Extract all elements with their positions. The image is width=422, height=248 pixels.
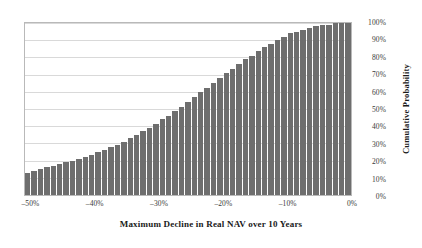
bar: [70, 161, 75, 195]
x-axis-title: Maximum Decline in Real NAV over 10 Year…: [0, 219, 422, 229]
bar: [192, 97, 197, 195]
y-axis-title: Cumulative Probability: [398, 22, 414, 196]
bar: [179, 107, 184, 195]
bar: [333, 23, 338, 195]
bar: [153, 124, 158, 195]
bar: [140, 131, 145, 195]
bar: [275, 40, 280, 195]
bar: [31, 171, 36, 195]
x-axis-tick-label: 0%: [347, 199, 357, 208]
bar: [300, 30, 305, 195]
plot-area: [24, 22, 352, 196]
bar: [147, 128, 152, 195]
y-axis-tick-label: 20%: [372, 157, 386, 166]
bar: [102, 150, 107, 195]
y-axis-tick-labels: 0%10%20%30%40%50%60%70%80%90%100%: [356, 22, 386, 196]
bar-series: [25, 23, 351, 195]
bar: [281, 37, 286, 195]
bar: [204, 88, 209, 195]
bar: [320, 25, 325, 195]
bar: [243, 59, 248, 195]
y-axis-tick-label: 80%: [372, 52, 386, 61]
y-axis-tick-label: 40%: [372, 122, 386, 131]
bar: [172, 111, 177, 195]
bar: [95, 152, 100, 195]
bar: [294, 32, 299, 195]
x-axis-tick-label: –30%: [150, 199, 168, 208]
y-axis-tick-label: 30%: [372, 139, 386, 148]
bar: [76, 159, 81, 195]
bar: [51, 166, 56, 195]
bar: [57, 164, 62, 195]
bar: [326, 25, 331, 195]
x-axis-tick-labels: –50%–40%–30%–20%–10%0%: [24, 199, 352, 211]
bar: [128, 138, 133, 195]
x-axis-tick-label: –10%: [279, 199, 297, 208]
y-axis-tick-label: 100%: [368, 18, 386, 27]
bar: [230, 69, 235, 195]
bar: [160, 119, 165, 195]
bar: [211, 83, 216, 195]
bar: [288, 33, 293, 195]
bar: [345, 23, 350, 195]
bar: [89, 155, 94, 195]
bar: [256, 51, 261, 195]
y-axis-tick-label: 60%: [372, 87, 386, 96]
bar: [185, 102, 190, 195]
bar: [134, 135, 139, 195]
bar: [166, 116, 171, 195]
bar: [63, 162, 68, 195]
y-axis-tick-label: 0%: [376, 192, 386, 201]
bar: [25, 173, 30, 195]
bar: [262, 47, 267, 195]
y-axis-tick-label: 70%: [372, 70, 386, 79]
bar: [313, 26, 318, 195]
bar: [268, 44, 273, 195]
bar: [121, 142, 126, 195]
x-axis-tick-label: –40%: [86, 199, 104, 208]
y-axis-tick-label: 50%: [372, 105, 386, 114]
cumulative-probability-chart: 0%10%20%30%40%50%60%70%80%90%100% Cumula…: [0, 0, 422, 248]
x-axis-tick-label: –50%: [21, 199, 39, 208]
bar: [83, 157, 88, 195]
bar: [236, 64, 241, 195]
bar: [44, 167, 49, 195]
bar: [198, 92, 203, 195]
bar: [115, 145, 120, 195]
bar: [217, 78, 222, 195]
bar: [38, 169, 43, 195]
bar: [108, 147, 113, 195]
y-axis-tick-label: 90%: [372, 35, 386, 44]
bar: [307, 28, 312, 195]
x-axis-tick-label: –20%: [214, 199, 232, 208]
bar: [249, 56, 254, 195]
y-axis-tick-label: 10%: [372, 174, 386, 183]
bar: [339, 23, 344, 195]
bar: [224, 73, 229, 195]
